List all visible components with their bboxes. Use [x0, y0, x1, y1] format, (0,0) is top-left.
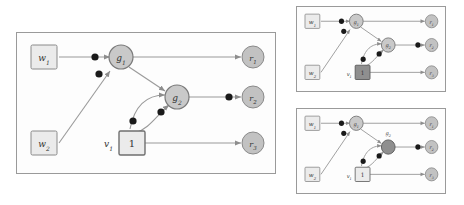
edge-v1-g2-curved-b: [135, 105, 169, 133]
weight-dot-w2-g1: [341, 131, 346, 136]
constant-node-v1-label: v1: [104, 139, 113, 152]
weight-dot-g2-r2: [415, 42, 420, 47]
figure-canvas: w1 w2 1 v1 g1 g2: [0, 0, 464, 205]
weight-dot-v1-g2-b: [377, 51, 382, 56]
weight-dot-v1-g2-b: [157, 108, 164, 115]
inset-panel-top-svg: w1 w2 1 v1 g1 g2 r1: [297, 7, 443, 89]
weight-dot-w2-g1: [95, 70, 102, 77]
edge-w2-g1: [59, 71, 110, 143]
weight-dot-w1-g1: [339, 19, 344, 24]
weight-dot-g2-r2: [415, 144, 420, 149]
weight-dot-v1-g2-a: [361, 159, 366, 164]
constant-node-v1-value: 1: [361, 70, 365, 76]
constant-node-v1-value: 1: [129, 138, 135, 149]
constant-node-v1-value: 1: [361, 172, 365, 178]
edge-w2-g1: [321, 30, 350, 73]
gate-node-g2-highlighted: [381, 140, 395, 154]
inset-panel-bottom: w1 w2 1 v1 g1 g2 r1: [296, 108, 446, 194]
main-graph-panel: w1 w2 1 v1 g1 g2: [16, 32, 276, 174]
weight-dot-v1-g2-a: [129, 117, 136, 124]
weight-dot-w1-g1: [339, 121, 344, 126]
gate-node-g2-label: g2: [386, 130, 392, 138]
weight-dot-v1-g2-b: [377, 153, 382, 158]
inset-panel-bottom-svg: w1 w2 1 v1 g1 g2 r1: [297, 109, 443, 191]
inset-panel-top: w1 w2 1 v1 g1 g2 r1: [296, 6, 446, 92]
edge-g1-g2: [361, 129, 382, 143]
weight-dot-w2-g1: [341, 29, 346, 34]
constant-node-v1-label: v1: [347, 173, 352, 181]
edge-g1-g2: [129, 67, 165, 91]
edge-w2-g1: [321, 132, 350, 175]
edge-g1-g2: [361, 27, 382, 41]
weight-dot-w1-g1: [91, 53, 98, 60]
main-graph-svg: w1 w2 1 v1 g1 g2: [17, 33, 273, 171]
constant-node-v1-label: v1: [347, 71, 352, 79]
weight-dot-v1-g2-a: [361, 57, 366, 62]
weight-dot-g2-r2: [225, 93, 232, 100]
